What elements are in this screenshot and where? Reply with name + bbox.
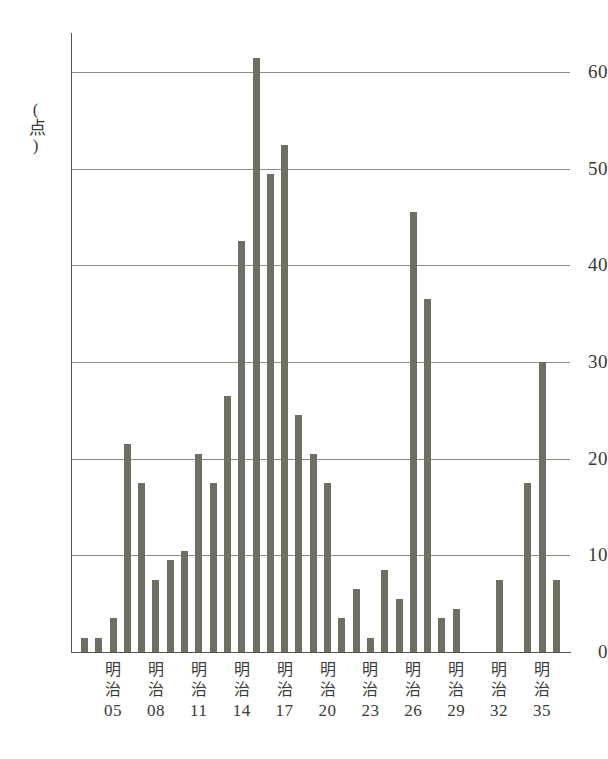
- era-char-1: 明: [225, 660, 259, 680]
- bar: [353, 589, 360, 652]
- era-char-2: 治: [525, 680, 559, 700]
- era-char-2: 治: [225, 680, 259, 700]
- x-tick-label-32: 明治32: [482, 660, 516, 722]
- era-year: 26: [396, 700, 430, 722]
- era-char-1: 明: [525, 660, 559, 680]
- era-year: 05: [96, 700, 130, 722]
- x-tick-label-20: 明治20: [311, 660, 345, 722]
- x-tick-label-23: 明治23: [353, 660, 387, 722]
- bar: [338, 618, 345, 652]
- bar-chart: 0102030405060 (点) 明治05明治08明治11明治14明治17明治…: [0, 0, 608, 759]
- bar: [524, 483, 531, 652]
- bar: [310, 454, 317, 652]
- bar: [167, 560, 174, 652]
- bar: [152, 580, 159, 653]
- bar: [424, 299, 431, 652]
- era-char-1: 明: [482, 660, 516, 680]
- x-tick-label-05: 明治05: [96, 660, 130, 722]
- bar: [124, 444, 131, 652]
- bar: [110, 618, 117, 652]
- era-year: 11: [182, 700, 216, 722]
- bar: [553, 580, 560, 653]
- era-char-2: 治: [311, 680, 345, 700]
- era-year: 08: [139, 700, 173, 722]
- era-char-1: 明: [353, 660, 387, 680]
- x-tick-label-14: 明治14: [225, 660, 259, 722]
- bar: [210, 483, 217, 652]
- bar: [281, 145, 288, 653]
- era-char-2: 治: [268, 680, 302, 700]
- era-year: 32: [482, 700, 516, 722]
- era-char-2: 治: [139, 680, 173, 700]
- bar: [381, 570, 388, 652]
- bar: [195, 454, 202, 652]
- x-tick-label-29: 明治29: [439, 660, 473, 722]
- bar: [267, 174, 274, 653]
- era-char-2: 治: [439, 680, 473, 700]
- era-char-2: 治: [396, 680, 430, 700]
- bar: [453, 609, 460, 653]
- era-year: 23: [353, 700, 387, 722]
- era-char-2: 治: [96, 680, 130, 700]
- bar: [253, 58, 260, 653]
- era-year: 35: [525, 700, 559, 722]
- bar: [181, 551, 188, 653]
- plot-area: [72, 33, 570, 652]
- x-tick-label-08: 明治08: [139, 660, 173, 722]
- era-char-2: 治: [182, 680, 216, 700]
- era-year: 29: [439, 700, 473, 722]
- era-char-1: 明: [439, 660, 473, 680]
- bar: [367, 638, 374, 653]
- era-char-1: 明: [96, 660, 130, 680]
- bar: [224, 396, 231, 652]
- bar: [238, 241, 245, 652]
- bar: [324, 483, 331, 652]
- x-tick-label-11: 明治11: [182, 660, 216, 722]
- x-tick-label-26: 明治26: [396, 660, 430, 722]
- x-axis-line: [71, 652, 571, 653]
- bar: [496, 580, 503, 653]
- y-axis-unit-label: (点): [14, 100, 44, 155]
- era-char-2: 治: [482, 680, 516, 700]
- bar: [138, 483, 145, 652]
- era-char-2: 治: [353, 680, 387, 700]
- bar: [95, 638, 102, 653]
- bar: [539, 362, 546, 652]
- x-tick-label-17: 明治17: [268, 660, 302, 722]
- era-char-1: 明: [396, 660, 430, 680]
- era-char-1: 明: [139, 660, 173, 680]
- era-year: 17: [268, 700, 302, 722]
- era-year: 14: [225, 700, 259, 722]
- era-char-1: 明: [182, 660, 216, 680]
- era-char-1: 明: [311, 660, 345, 680]
- era-char-1: 明: [268, 660, 302, 680]
- bar: [295, 415, 302, 652]
- bar: [438, 618, 445, 652]
- bar: [410, 212, 417, 652]
- bar: [81, 638, 88, 653]
- bar: [396, 599, 403, 652]
- era-year: 20: [311, 700, 345, 722]
- x-tick-label-35: 明治35: [525, 660, 559, 722]
